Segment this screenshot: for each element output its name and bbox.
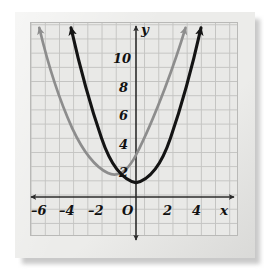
y-tick-label-2: 2 xyxy=(119,166,128,179)
y-tick-label-4: 4 xyxy=(119,138,128,151)
y-tick-label-6: 6 xyxy=(119,109,128,122)
x-tick-label-4: 4 xyxy=(192,204,201,217)
x-tick-label-minus4: –4 xyxy=(59,204,75,217)
origin-label: O xyxy=(122,204,133,217)
x-tick-label-minus6: –6 xyxy=(31,204,47,217)
y-axis-name: y xyxy=(141,23,149,37)
x-tick-label-minus2: –2 xyxy=(88,204,104,217)
figure-page: 10 8 6 4 2 –6 –4 –2 O 2 4 y x xyxy=(0,0,269,274)
y-tick-label-10: 10 xyxy=(113,52,131,65)
x-tick-label-2: 2 xyxy=(163,204,172,217)
x-axis-name: x xyxy=(220,204,228,218)
graph-paper-sheet: 10 8 6 4 2 –6 –4 –2 O 2 4 y x xyxy=(15,12,255,258)
y-tick-label-8: 8 xyxy=(119,81,128,94)
plot-canvas xyxy=(15,12,255,258)
